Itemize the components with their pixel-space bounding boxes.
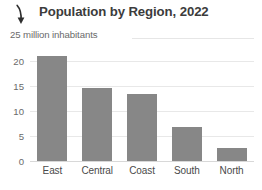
x-tick-label: North — [220, 165, 244, 176]
chart-subtitle: 25 million inhabitants — [10, 29, 97, 40]
y-tick-label: 0 — [19, 155, 24, 166]
chart-header: Population by Region, 2022 — [0, 0, 262, 28]
bar — [82, 88, 112, 161]
y-tick-label: 20 — [13, 55, 24, 66]
y-tick-label: 15 — [13, 80, 24, 91]
bar-series — [30, 44, 254, 161]
bar — [217, 148, 247, 161]
arrow-down-icon — [10, 3, 32, 27]
y-tick-label: 5 — [19, 130, 24, 141]
y-tick-label: 10 — [13, 105, 24, 116]
chart-title: Population by Region, 2022 — [39, 4, 209, 19]
bar-chart-figure: Population by Region, 2022 25 million in… — [0, 0, 262, 190]
subtitle-rule — [132, 38, 254, 39]
x-axis: EastCentralCoastSouthNorth — [30, 165, 254, 181]
x-tick-label: Coast — [129, 165, 155, 176]
x-tick-label: Central — [81, 165, 113, 176]
bar — [127, 94, 157, 161]
x-tick-label: South — [174, 165, 200, 176]
plot-area: 05101520 — [30, 44, 254, 161]
bar — [172, 127, 202, 161]
bar — [37, 56, 67, 161]
x-tick-label: East — [43, 165, 63, 176]
